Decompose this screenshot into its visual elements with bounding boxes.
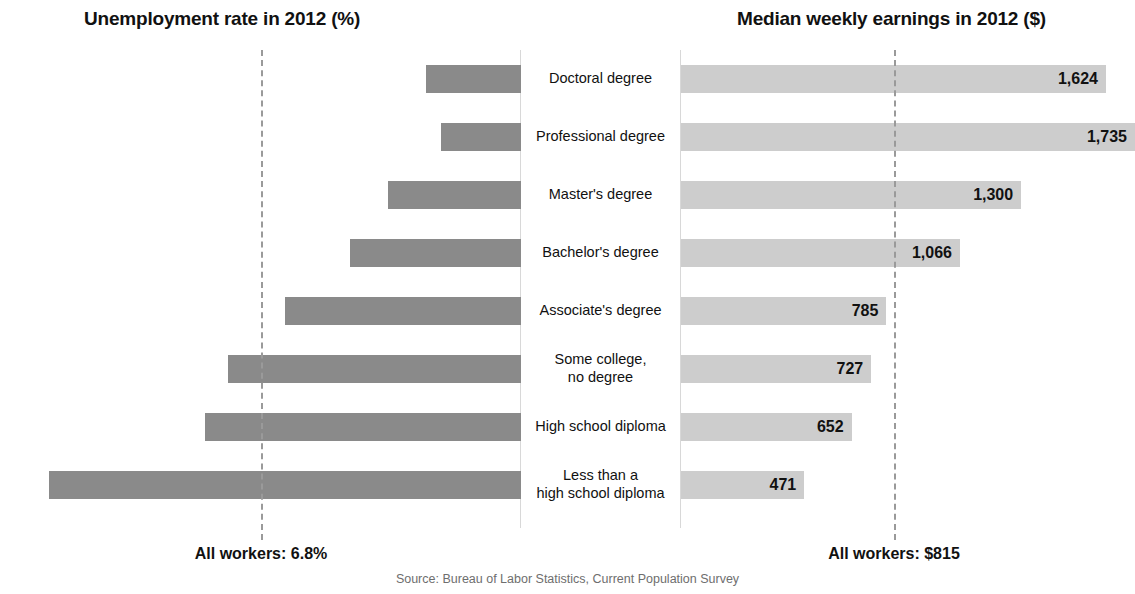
unemployment-bar: 8.3 [205, 413, 521, 441]
category-labels-column: Doctoral degreeProfessional degreeMaster… [521, 50, 680, 528]
earnings-row: 785 [680, 282, 1135, 340]
category-label: Some college,no degree [521, 340, 680, 398]
unemployment-bar: 3.5 [388, 181, 521, 209]
category-label: Associate's degree [521, 282, 680, 340]
unemployment-bar: 4.5 [350, 239, 521, 267]
earnings-bar: 471 [681, 471, 804, 499]
category-label: High school diploma [521, 398, 680, 456]
earnings-value-label: 785 [852, 302, 879, 320]
earnings-bar: 1,735 [681, 123, 1135, 151]
unemployment-bar: 7.7 [228, 355, 521, 383]
earnings-value-label: 1,066 [912, 244, 952, 262]
earnings-value-label: 727 [837, 360, 864, 378]
earnings-bar: 785 [681, 297, 886, 325]
earnings-value-label: 1,624 [1058, 70, 1098, 88]
earnings-row: 1,300 [680, 166, 1135, 224]
earnings-row: 727 [680, 340, 1135, 398]
earnings-row: 652 [680, 398, 1135, 456]
category-label: Professional degree [521, 108, 680, 166]
earnings-bar: 727 [681, 355, 871, 383]
earnings-row: 1,066 [680, 224, 1135, 282]
unemployment-bar: 12.4 [49, 471, 521, 499]
earnings-bars-area: 1,6241,7351,3001,066785727652471 [680, 50, 1135, 528]
earnings-value-label: 652 [817, 418, 844, 436]
category-label: Less than ahigh school diploma [521, 456, 680, 514]
earnings-value-label: 471 [770, 476, 797, 494]
category-label: Master's degree [521, 166, 680, 224]
all-workers-earnings-label: All workers: $815 [828, 545, 960, 563]
all-workers-unemployment-label: All workers: 6.8% [195, 545, 328, 563]
left-panel-title: Unemployment rate in 2012 (%) [84, 8, 360, 30]
unemployment-reference-line [261, 50, 263, 540]
earnings-value-label: 1,735 [1087, 128, 1127, 146]
unemployment-bar: 6.2 [285, 297, 521, 325]
earnings-value-label: 1,300 [973, 186, 1013, 204]
unemployment-bar: 2.1 [441, 123, 521, 151]
earnings-reference-line [894, 50, 896, 540]
earnings-bar: 1,300 [681, 181, 1021, 209]
earnings-row: 1,624 [680, 50, 1135, 108]
earnings-bar: 1,066 [681, 239, 960, 267]
category-label: Doctoral degree [521, 50, 680, 108]
earnings-bar: 652 [681, 413, 852, 441]
earnings-row: 471 [680, 456, 1135, 514]
source-note: Source: Bureau of Labor Statistics, Curr… [0, 572, 1135, 586]
education-earnings-chart: Unemployment rate in 2012 (%) Median wee… [0, 0, 1135, 594]
unemployment-bar: 2.5 [426, 65, 521, 93]
right-panel-title: Median weekly earnings in 2012 ($) [737, 8, 1046, 30]
category-label: Bachelor's degree [521, 224, 680, 282]
earnings-row: 1,735 [680, 108, 1135, 166]
